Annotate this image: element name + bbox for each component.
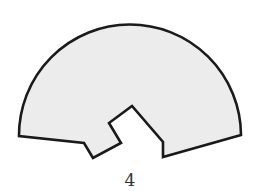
notched-sector-shape xyxy=(0,0,260,191)
figure-label: 4 xyxy=(0,170,260,190)
shape-outline xyxy=(19,24,241,158)
